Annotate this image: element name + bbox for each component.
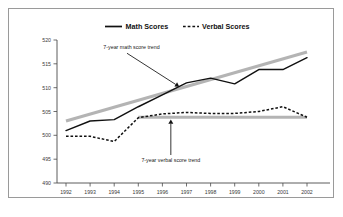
annotation-math-trend: 7-year math score trend [103,44,179,87]
series-line-math [66,58,307,131]
x-tick-label: 1999 [229,189,241,195]
y-tick-label: 495 [42,156,51,162]
chart-figure: Math Scores Verbal Scores 490 495 500 50… [0,0,343,217]
y-tick-label: 490 [42,180,51,186]
y-tick-label: 500 [42,132,51,138]
legend-label-verbal: Verbal Scores [202,22,250,31]
x-tick-label: 1993 [84,189,96,195]
annotation-label-math-trend: 7-year math score trend [103,44,159,50]
x-tick-label: 1992 [60,189,72,195]
x-tick-label: 2002 [301,189,313,195]
x-tick-label: 1995 [133,189,145,195]
x-tick-label: 1996 [157,189,169,195]
x-tick-label: 1998 [205,189,217,195]
chart-legend: Math Scores Verbal Scores [105,22,250,31]
y-tick-label: 505 [42,109,51,115]
line-chart: Math Scores Verbal Scores 490 495 500 50… [0,0,343,217]
annotation-label-verbal-trend: 7-year verbal score trend [141,157,200,163]
annotation-verbal-trend: 7-year verbal score trend [141,120,200,163]
y-tick-label: 515 [42,61,51,67]
y-tick-label: 510 [42,85,51,91]
data-series [66,58,307,142]
trend-lines [66,52,307,121]
x-tick-label: 1997 [181,189,193,195]
legend-label-math: Math Scores [126,22,169,31]
annotation-arrowhead-verbal-trend [168,120,173,124]
x-tick-label: 2000 [253,189,265,195]
annotation-arrow-math-trend [127,53,176,84]
y-tick-label: 520 [42,37,51,43]
x-axis-ticks: 1992 1993 1994 1995 1996 1997 1998 1999 … [60,183,313,195]
y-axis-ticks: 490 495 500 505 510 515 520 [42,37,57,186]
trend-line-math [66,52,307,121]
x-tick-label: 2001 [277,189,289,195]
x-tick-label: 1994 [108,189,120,195]
